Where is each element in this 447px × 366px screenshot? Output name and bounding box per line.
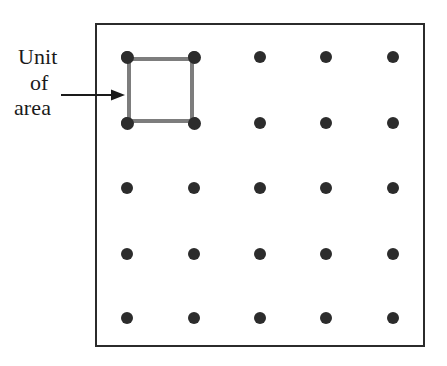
lattice-dot [188, 248, 200, 260]
lattice-dot [121, 312, 133, 324]
lattice-dot [254, 248, 266, 260]
lattice-dot [320, 117, 332, 129]
unit-square-corner-dot [188, 117, 201, 130]
lattice-dot [387, 182, 399, 194]
lattice-dot [320, 182, 332, 194]
label-line-1: Unit [8, 44, 80, 70]
lattice-dot [387, 51, 399, 63]
lattice-dot [254, 182, 266, 194]
unit-square-corner-dot [188, 51, 201, 64]
lattice-dot [254, 51, 266, 63]
lattice-dot [188, 312, 200, 324]
lattice-dot [254, 117, 266, 129]
lattice-dot [254, 312, 266, 324]
lattice-dot [320, 248, 332, 260]
unit-of-area-label: Unit of area [8, 44, 80, 121]
lattice-dot [121, 182, 133, 194]
arrow-right-icon [61, 87, 125, 103]
unit-square-corner-dot [121, 51, 134, 64]
lattice-dot [320, 51, 332, 63]
lattice-dot [121, 248, 133, 260]
unit-of-area-figure: Unit of area [0, 0, 447, 366]
lattice-dot [387, 117, 399, 129]
lattice-dot [387, 248, 399, 260]
unit-square-corner-dot [121, 117, 134, 130]
unit-square [127, 57, 194, 123]
lattice-dot [188, 182, 200, 194]
lattice-dot [387, 312, 399, 324]
lattice-dot [320, 312, 332, 324]
